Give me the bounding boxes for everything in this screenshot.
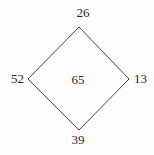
diamond-diagram: 26 13 39 52 65: [0, 0, 154, 155]
center-label: 65: [72, 72, 85, 87]
left-vertex-label: 52: [11, 71, 24, 86]
bottom-vertex-label: 39: [72, 132, 85, 147]
top-vertex-label: 26: [77, 5, 91, 20]
diagram-canvas: 26 13 39 52 65: [0, 0, 154, 155]
right-vertex-label: 13: [134, 71, 147, 86]
